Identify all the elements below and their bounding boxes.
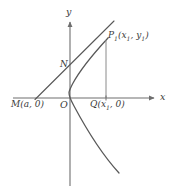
geometry-figure: y x O M(a, 0) N Q(x1, 0) P1(x1, y1) [0, 0, 173, 194]
x-axis-label: x [160, 92, 165, 102]
point-p-close: ) [145, 30, 149, 40]
secant-line-mp [35, 21, 114, 100]
y-axis-label: y [66, 7, 71, 17]
point-q-prefix: Q(x [90, 99, 106, 109]
point-p-open: (x [118, 30, 127, 40]
point-p1-label: P1(x1, y1) [108, 31, 149, 42]
point-m-label: M(a, 0) [11, 100, 44, 109]
origin-label: O [60, 100, 68, 110]
point-n-label: N [60, 60, 68, 69]
point-q-suffix: , 0) [110, 99, 125, 109]
point-q-label: Q(x1, 0) [90, 100, 125, 111]
point-p-mid: , y [130, 30, 141, 40]
